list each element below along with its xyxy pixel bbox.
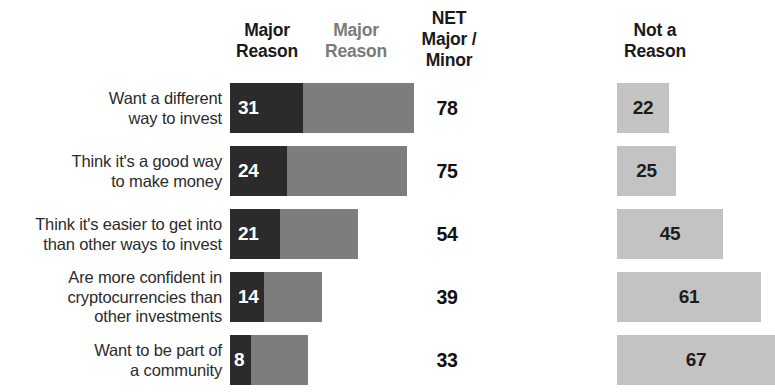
bar-value-not-a-reason: 61 — [617, 286, 761, 308]
row-label-line1: Want a different — [0, 89, 222, 109]
bar-segment-major-reason: 21 — [230, 209, 280, 259]
bar-value-major-reason: 24 — [238, 160, 259, 182]
row-label-line2: than other ways to invest — [0, 234, 222, 254]
chart-header-row: Major Reason Major Reason NET Major / Mi… — [0, 0, 768, 78]
column-header-not-a-reason: Not a Reason — [600, 20, 710, 62]
row-label-line1: Think it's easier to get into — [0, 215, 222, 235]
bar-not-a-reason: 67 — [617, 335, 775, 385]
column-header-net-line1: NET — [404, 8, 494, 29]
bar-value-major-reason: 31 — [238, 97, 259, 119]
column-header-major-reason: Major Reason — [224, 20, 310, 62]
stacked-bar: 14 — [230, 272, 322, 322]
bar-not-a-reason: 22 — [617, 83, 669, 133]
bar-segment-minor-reason — [287, 146, 407, 196]
bar-value-major-reason: 21 — [238, 223, 259, 245]
row-label: Are more confident in cryptocurrencies t… — [0, 268, 222, 327]
chart-row: Want a different way to invest 31 78 22 — [0, 83, 768, 133]
row-label: Think it's a good way to make money — [0, 152, 222, 191]
column-header-minor-reason-line2: Reason — [312, 41, 400, 62]
row-label-line1: Are more confident in — [0, 268, 222, 288]
bar-segment-major-reason: 14 — [230, 272, 264, 322]
bar-value-not-a-reason: 45 — [617, 223, 723, 245]
row-label-line2: to make money — [0, 171, 222, 191]
bar-segment-minor-reason — [264, 272, 322, 322]
chart-row: Think it's easier to get into than other… — [0, 209, 768, 259]
column-header-net-line2: Major / — [404, 29, 494, 50]
stacked-bar: 24 — [230, 146, 407, 196]
row-label-line2: cryptocurrencies than — [0, 287, 222, 307]
row-label: Want a different way to invest — [0, 89, 222, 128]
column-header-not-a-reason-line1: Not a — [600, 20, 710, 41]
row-label-line2: a community — [0, 360, 222, 380]
column-header-minor-reason: Major Reason — [312, 20, 400, 62]
column-header-not-a-reason-line2: Reason — [600, 41, 710, 62]
bar-value-major-reason: 14 — [238, 286, 259, 308]
net-value: 75 — [418, 160, 476, 183]
column-header-minor-reason-line1: Major — [312, 20, 400, 41]
bar-segment-minor-reason — [280, 209, 358, 259]
net-value: 54 — [418, 223, 476, 246]
chart-row: Want to be part of a community 8 33 67 — [0, 335, 768, 385]
chart-row: Think it's a good way to make money 24 7… — [0, 146, 768, 196]
bar-not-a-reason: 25 — [617, 146, 676, 196]
column-header-net-line3: Minor — [404, 50, 494, 71]
bar-segment-minor-reason — [303, 83, 414, 133]
bar-value-major-reason: 8 — [234, 349, 244, 371]
net-value: 39 — [418, 286, 476, 309]
row-label-line1: Think it's a good way — [0, 152, 222, 172]
row-label-line3: other investments — [0, 307, 222, 327]
column-header-net: NET Major / Minor — [404, 8, 494, 71]
bar-value-not-a-reason: 25 — [617, 160, 676, 182]
bar-value-not-a-reason: 67 — [617, 349, 775, 371]
bar-value-not-a-reason: 22 — [617, 97, 669, 119]
bar-segment-major-reason: 8 — [230, 335, 251, 385]
row-label-line1: Want to be part of — [0, 341, 222, 361]
net-value: 33 — [418, 349, 476, 372]
row-label-line2: way to invest — [0, 108, 222, 128]
stacked-bar: 21 — [230, 209, 358, 259]
net-value: 78 — [418, 97, 476, 120]
bar-segment-minor-reason — [251, 335, 308, 385]
row-label: Want to be part of a community — [0, 341, 222, 380]
bar-not-a-reason: 45 — [617, 209, 723, 259]
stacked-bar: 8 — [230, 335, 308, 385]
column-header-major-reason-line2: Reason — [224, 41, 310, 62]
column-header-major-reason-line1: Major — [224, 20, 310, 41]
bar-segment-major-reason: 31 — [230, 83, 303, 133]
stacked-bar: 31 — [230, 83, 414, 133]
chart-row: Are more confident in cryptocurrencies t… — [0, 272, 768, 322]
bar-segment-major-reason: 24 — [230, 146, 287, 196]
bar-not-a-reason: 61 — [617, 272, 761, 322]
row-label: Think it's easier to get into than other… — [0, 215, 222, 254]
